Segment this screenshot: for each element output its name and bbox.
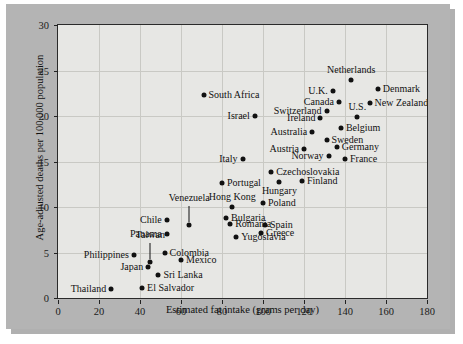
y-tick xyxy=(54,253,58,254)
data-point-label: Philippines xyxy=(84,250,129,260)
data-point xyxy=(349,77,354,82)
data-point xyxy=(230,205,235,210)
data-point-label: France xyxy=(350,154,377,164)
data-point-label: Thailand xyxy=(71,284,107,294)
data-point xyxy=(269,170,274,175)
data-point-label: Mexico xyxy=(186,255,217,265)
data-point-label: Australia xyxy=(271,127,308,137)
y-tick-label: 0 xyxy=(44,293,49,304)
data-point xyxy=(336,100,341,105)
data-point xyxy=(326,154,331,159)
data-point xyxy=(109,286,114,291)
data-point-label: Denmark xyxy=(383,84,420,94)
data-point xyxy=(330,88,335,93)
data-point-label: Belgium xyxy=(346,123,380,133)
plot-area: South AfricaIsraelNetherlandsDenmarkU.K.… xyxy=(58,25,427,298)
data-point-label: Netherlands xyxy=(327,65,375,75)
data-point xyxy=(156,273,161,278)
data-point xyxy=(261,201,266,206)
data-point xyxy=(220,181,225,186)
y-tick xyxy=(54,298,58,299)
data-point xyxy=(234,235,239,240)
x-axis-title: Estimated fat intake (grams per day) xyxy=(57,304,428,315)
data-point xyxy=(277,179,282,184)
data-point-label: U.K. xyxy=(308,86,327,96)
data-point-label: Hungary xyxy=(262,186,297,196)
data-point-label: U.S. xyxy=(348,102,366,112)
gridline-horizontal xyxy=(58,207,427,208)
data-point xyxy=(162,251,167,256)
y-tick-label: 5 xyxy=(44,247,49,258)
data-point xyxy=(228,222,233,227)
data-point-label: Yugoslavia xyxy=(241,232,285,242)
data-point xyxy=(367,101,372,106)
data-point xyxy=(187,223,192,228)
data-point-label: Poland xyxy=(268,198,296,208)
label-leader-line xyxy=(189,206,190,222)
y-tick-label: 20 xyxy=(39,111,50,122)
data-point xyxy=(240,156,245,161)
y-tick-label: 25 xyxy=(39,65,50,76)
y-axis-title: Age-adjusted deaths per 100,000 populati… xyxy=(34,10,45,285)
data-point xyxy=(164,217,169,222)
data-point-label: Japan xyxy=(120,262,143,272)
data-point xyxy=(252,114,257,119)
data-point-label: Venezuela xyxy=(169,193,210,203)
data-point-label: Norway xyxy=(291,151,323,161)
label-leader-line xyxy=(150,243,151,259)
y-tick xyxy=(54,116,58,117)
data-point xyxy=(324,108,329,113)
y-tick xyxy=(54,71,58,72)
data-point-label: Taiwan xyxy=(136,230,165,240)
data-point xyxy=(201,93,206,98)
data-point xyxy=(355,114,360,119)
data-point-label: New Zealand xyxy=(375,98,427,108)
figure-mount: Age-adjusted deaths per 100,000 populati… xyxy=(6,4,450,329)
data-point xyxy=(310,130,315,135)
data-point-label: Chile xyxy=(140,215,162,225)
data-point-label: South Africa xyxy=(209,90,260,100)
data-point xyxy=(324,137,329,142)
data-point-label: Hong Kong xyxy=(209,192,256,202)
data-point xyxy=(343,156,348,161)
data-point-label: Israel xyxy=(228,111,250,121)
data-point xyxy=(179,257,184,262)
y-tick-label: 10 xyxy=(39,202,50,213)
data-point xyxy=(148,259,153,264)
y-tick xyxy=(54,162,58,163)
y-tick xyxy=(54,25,58,26)
data-point-label: Italy xyxy=(219,154,237,164)
data-point xyxy=(146,265,151,270)
y-tick-label: 30 xyxy=(39,20,50,31)
data-point-label: El Salvador xyxy=(147,283,194,293)
data-point-label: Sri Lanka xyxy=(163,270,202,280)
data-point xyxy=(140,285,145,290)
data-point xyxy=(318,115,323,120)
y-tick-label: 15 xyxy=(39,156,50,167)
y-tick xyxy=(54,207,58,208)
scatter-plot-figure: Age-adjusted deaths per 100,000 populati… xyxy=(0,0,463,344)
data-point-label: Portugal xyxy=(227,178,261,188)
data-point xyxy=(334,144,339,149)
data-point-label: Finland xyxy=(307,176,338,186)
data-point xyxy=(131,253,136,258)
data-point xyxy=(224,215,229,220)
data-point xyxy=(338,125,343,130)
data-point-label: Ireland xyxy=(287,113,315,123)
data-point xyxy=(375,86,380,91)
plot-panel: South AfricaIsraelNetherlandsDenmarkU.K.… xyxy=(57,24,428,299)
data-point-label: Germany xyxy=(342,142,379,152)
data-point xyxy=(299,178,304,183)
